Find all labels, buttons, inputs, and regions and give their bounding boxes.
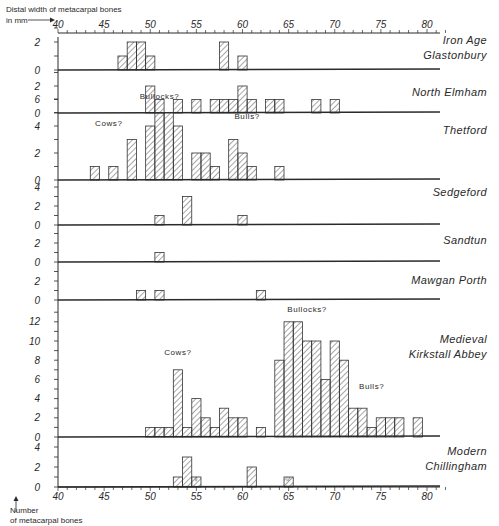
x-tick-label: 40 (52, 491, 64, 502)
axis-titles: Distal width of metacarpal bones in mm N… (6, 5, 122, 525)
x-tick-label: 70 (329, 491, 341, 502)
x-axis-title-line2: in mm (6, 16, 28, 25)
histogram-bar (339, 360, 348, 437)
x-tick-label: 45 (99, 19, 111, 30)
panel-site-label: North Elmham (412, 86, 487, 98)
panel-site-label: Thetford (443, 124, 488, 136)
x-tick-label: 75 (375, 19, 387, 30)
y-tick-label: 6 (34, 94, 40, 105)
histogram-bar (155, 291, 164, 301)
bottom-x-axis: 404550556065707580 (52, 487, 445, 502)
panel-site-label: Modern (447, 445, 487, 457)
histogram-bar (192, 153, 201, 180)
histogram-bar (238, 56, 247, 70)
histogram-bar (155, 427, 164, 437)
x-tick-label: 60 (237, 491, 249, 502)
histogram-bar (413, 418, 422, 437)
y-tick-label: 0 (34, 65, 40, 76)
x-tick-label: 65 (283, 19, 295, 30)
panel-iron-age-glastonbury: 02Iron AgeGlastonbury (33, 28, 488, 76)
histogram-bar (284, 322, 293, 437)
x-tick-label: 45 (99, 491, 111, 502)
panel-modern-chillingham: 024ModernChillingham♀♂ (33, 442, 487, 493)
histogram-bar (395, 418, 404, 437)
y-tick-label: 2 (33, 37, 40, 48)
y-tick-label: 2 (33, 148, 40, 159)
annotation-label: Bullocks? (287, 305, 327, 314)
histogram-bar (349, 408, 358, 437)
y-tick-label: 0 (34, 295, 40, 306)
histogram-bar (109, 167, 118, 181)
annotation-label: Bullocks? (140, 92, 180, 101)
histogram-bar (238, 418, 247, 437)
histogram-bar (229, 140, 238, 181)
histogram-bar (256, 291, 265, 301)
histogram-bar (266, 100, 275, 114)
histogram-bar (376, 418, 385, 437)
panel-baseline (58, 261, 440, 262)
histogram-bar (330, 341, 339, 437)
histogram-bar (358, 408, 367, 437)
histogram-bar (210, 427, 219, 437)
histogram-bar (146, 126, 155, 180)
x-tick-label: 80 (421, 19, 433, 30)
histogram-bar (312, 341, 321, 437)
y-axis-title-line1: Number (10, 506, 39, 515)
histogram-bar (247, 100, 256, 114)
panel-sedgeford: 024Sedgeford (33, 182, 487, 231)
panel-site-label: Sandtun (443, 234, 487, 246)
histogram-bar (201, 153, 210, 180)
top-x-axis: 404550556065707580 (52, 19, 445, 33)
histogram-bar (164, 113, 173, 181)
arrowhead-icon (14, 496, 19, 501)
panel-baseline (58, 436, 440, 437)
y-tick-label: 2 (33, 201, 40, 212)
histogram-bar (201, 418, 210, 437)
y-tick-label: 4 (34, 182, 40, 193)
histogram-bar (219, 100, 228, 114)
annotation-label: ♂ (285, 475, 292, 484)
annotation-label: Cows? (95, 119, 122, 128)
histogram-bar (183, 427, 192, 437)
histogram-bar (330, 100, 339, 114)
histogram-bar (229, 418, 238, 437)
y-tick-label: 2 (33, 81, 40, 92)
y-tick-label: 0 (34, 108, 40, 119)
x-tick-label: 80 (421, 491, 433, 502)
y-tick-label: 0 (34, 257, 40, 268)
histogram-bar (155, 100, 164, 114)
x-tick-label: 75 (375, 491, 387, 502)
x-tick-label: 70 (329, 19, 341, 30)
histogram-bar (192, 100, 201, 114)
x-tick-label: 55 (191, 19, 203, 30)
panel-site-label: Mawgan Porth (411, 274, 487, 286)
panel-mawgan-porth: 02Mawgan Porth (33, 272, 487, 306)
y-tick-label: 4 (34, 442, 40, 453)
x-tick-label: 65 (283, 491, 295, 502)
y-tick-label: 2 (33, 462, 40, 473)
histogram-bar (155, 253, 164, 263)
panel-site-label: Medieval (440, 333, 487, 345)
panel-baseline (58, 299, 440, 300)
histogram-bar (210, 167, 219, 181)
histogram-bar (136, 291, 145, 301)
histogram-bar (173, 370, 182, 437)
histogram-bar (146, 56, 155, 70)
panel-site-label: Sedgeford (433, 186, 488, 198)
histogram-bar (247, 167, 256, 181)
annotation-label: ♀ (193, 475, 200, 484)
histogram-bar (238, 86, 247, 113)
y-tick-label: 0 (34, 220, 40, 231)
histogram-bar (210, 100, 219, 114)
panel-thetford: 0246ThetfordCows?Bullocks?Bulls? (33, 92, 487, 186)
histogram-bar (275, 167, 284, 181)
panel-site-label: Chillingham (425, 460, 487, 472)
panel-medieval-kirkstall-abbey: 024681012MedievalKirkstall AbbeyCows?Bul… (29, 305, 488, 442)
histogram-bar (275, 360, 284, 437)
x-tick-label: 50 (145, 19, 157, 30)
y-tick-label: 4 (34, 393, 40, 404)
histogram-bar (183, 197, 192, 226)
histogram-bar (302, 341, 311, 437)
histogram-chart: 404550556065707580 02Iron AgeGlastonbury… (0, 0, 499, 526)
x-tick-label: 60 (237, 19, 249, 30)
